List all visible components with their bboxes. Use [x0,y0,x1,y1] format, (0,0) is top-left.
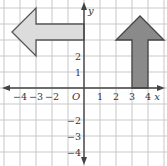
x-tick-label: −3 [29,91,43,102]
origin-label: O [72,91,80,102]
x-axis-left-arrow-icon [2,85,10,91]
coordinate-plane-figure: −4−3−2123421−2−3−4Oyx [0,0,167,166]
up-pointing-arrow [116,16,164,88]
x-tick-label: 1 [97,91,103,102]
x-tick-label: −2 [45,91,59,102]
y-tick-label: −3 [67,131,81,142]
y-tick-label: 1 [75,67,81,78]
x-tick-label: 3 [129,91,135,102]
x-tick-label: 4 [145,91,151,102]
y-axis-label: y [87,5,94,16]
shapes [12,8,164,88]
y-tick-label: 2 [75,51,81,62]
y-axis-up-arrow-icon [81,2,87,10]
y-tick-label: −2 [67,115,81,126]
y-axis-down-arrow-icon [81,157,87,165]
x-tick-label: −4 [13,91,27,102]
left-pointing-arrow [12,8,84,56]
x-tick-label: 2 [113,91,119,102]
coordinate-plane: −4−3−2123421−2−3−4Oyx [0,0,167,166]
y-tick-label: −4 [67,147,81,158]
x-axis-label: x [154,91,160,102]
